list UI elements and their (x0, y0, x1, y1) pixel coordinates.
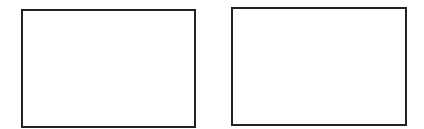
empty-rectangle-right (231, 7, 407, 126)
empty-rectangle-left (21, 9, 196, 128)
